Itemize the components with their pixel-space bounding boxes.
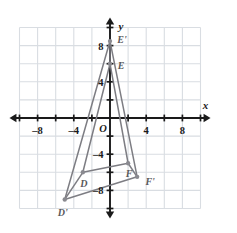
axis-name-labels: xy <box>117 20 209 111</box>
svg-text:F': F' <box>144 176 155 187</box>
svg-text:–8: –8 <box>31 125 43 136</box>
svg-text:y: y <box>117 20 124 32</box>
coordinate-plane-figure: –8–44884–4–8O DEFD'E'F' xy <box>0 0 237 233</box>
svg-text:–4: –4 <box>68 125 80 136</box>
svg-text:E': E' <box>116 34 127 45</box>
svg-text:D: D <box>79 178 87 189</box>
svg-text:F: F <box>125 168 133 179</box>
svg-text:4: 4 <box>98 77 104 88</box>
svg-text:E: E <box>117 60 125 71</box>
svg-text:8: 8 <box>180 125 185 136</box>
svg-text:8: 8 <box>98 41 103 52</box>
svg-text:O: O <box>99 123 107 134</box>
svg-text:4: 4 <box>144 125 150 136</box>
svg-text:D': D' <box>57 207 68 218</box>
svg-text:x: x <box>202 99 209 111</box>
coordinate-plane-svg: –8–44884–4–8O DEFD'E'F' xy <box>0 0 237 233</box>
svg-text:–4: –4 <box>92 149 104 160</box>
svg-text:–8: –8 <box>92 185 104 196</box>
